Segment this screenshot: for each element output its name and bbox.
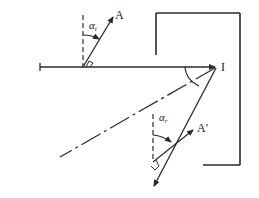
- right-angle-marker: [86, 61, 93, 67]
- right-angle-marker-reflected: [151, 160, 159, 170]
- label-A-prime: A′: [197, 121, 209, 135]
- alpha-r-label: αr: [159, 111, 168, 125]
- angle-arc-reflected: [153, 135, 171, 142]
- alpha-i-label: αi: [89, 19, 97, 33]
- label-I: I: [221, 60, 225, 74]
- reflection-diagram: αi A I αr A′: [0, 0, 259, 198]
- arrow-A: [83, 17, 113, 67]
- mirror-housing: [156, 13, 240, 165]
- arrow-A-prime: [153, 130, 193, 162]
- label-A: A: [115, 8, 124, 22]
- horizontal-ray: [40, 63, 215, 71]
- angle-arc-incident: [83, 35, 99, 39]
- angle-arc-at-I: [185, 67, 199, 86]
